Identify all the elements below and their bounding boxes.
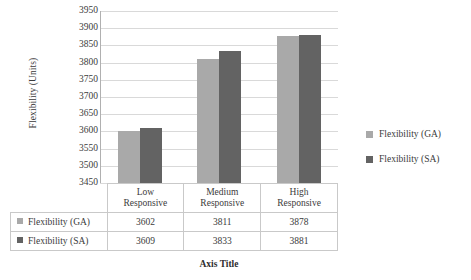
bar-sa[interactable] <box>219 51 241 183</box>
bar-group <box>100 11 179 183</box>
legend-label: Flexibility (SA) <box>379 154 439 164</box>
bar-chart-figure: Flexibility (Units) 34503500355036003650… <box>0 0 471 280</box>
category-header-cell: LowResponsive <box>107 184 184 213</box>
y-axis-tick-label: 3950 <box>62 6 98 16</box>
bar-ga[interactable] <box>118 131 140 183</box>
chart-data-table: LowResponsiveMediumResponsiveHighRespons… <box>10 183 338 251</box>
y-axis-tick-label: 3500 <box>62 161 98 171</box>
category-label-line: Responsive <box>108 198 184 209</box>
table-value-cell: 3609 <box>107 232 184 251</box>
category-label-line: Responsive <box>261 198 337 209</box>
bar-ga[interactable] <box>277 36 299 183</box>
series-color-swatch-icon <box>17 218 23 224</box>
legend-item[interactable]: Flexibility (GA) <box>366 128 468 140</box>
legend-label: Flexibility (GA) <box>379 129 441 139</box>
table-value-cell: 3881 <box>261 232 338 251</box>
series-color-swatch-icon <box>17 237 23 243</box>
table-row: Flexibility (SA)360938333881 <box>11 232 338 251</box>
table-row-categories: LowResponsiveMediumResponsiveHighRespons… <box>11 184 338 213</box>
y-axis-tick-label: 3550 <box>62 144 98 154</box>
bar-ga[interactable] <box>197 59 219 183</box>
table-value-cell: 3602 <box>107 213 184 232</box>
y-axis-tick-label: 3800 <box>62 58 98 68</box>
y-axis-tick-label: 3750 <box>62 75 98 85</box>
table-value-cell: 3833 <box>184 232 261 251</box>
chart-legend: Flexibility (GA)Flexibility (SA) <box>366 128 468 178</box>
category-label-line: Responsive <box>184 198 260 209</box>
y-axis-tick-label: 3700 <box>62 92 98 102</box>
table-row: Flexibility (GA)360238113878 <box>11 213 338 232</box>
category-label-line: Medium <box>184 187 260 198</box>
legend-color-swatch-icon <box>366 156 373 163</box>
legend-item[interactable]: Flexibility (SA) <box>366 153 468 165</box>
y-axis-tick-label: 3900 <box>62 23 98 33</box>
table-value-cell: 3878 <box>261 213 338 232</box>
table-value-cell: 3811 <box>184 213 261 232</box>
y-axis-tick-label: 3650 <box>62 109 98 119</box>
table-series-label: Flexibility (GA) <box>28 217 90 227</box>
table-corner-cell <box>11 184 108 213</box>
bars-layer <box>100 11 338 183</box>
table-series-label-cell: Flexibility (SA) <box>11 232 108 251</box>
bar-group <box>259 11 338 183</box>
y-axis-tick-labels: 3450350035503600365037003750380038503900… <box>62 11 98 183</box>
y-axis-tick-label: 3850 <box>62 41 98 51</box>
y-axis-title: Flexibility (Units) <box>28 23 38 163</box>
category-header-cell: MediumResponsive <box>184 184 261 213</box>
plot-area <box>100 11 338 183</box>
legend-color-swatch-icon <box>366 131 373 138</box>
category-header-cell: HighResponsive <box>261 184 338 213</box>
bar-sa[interactable] <box>299 35 321 183</box>
y-axis-tick-label: 3600 <box>62 127 98 137</box>
bar-sa[interactable] <box>140 128 162 183</box>
category-label-line: High <box>261 187 337 198</box>
bar-group <box>179 11 258 183</box>
category-label-line: Low <box>108 187 184 198</box>
table-series-label-cell: Flexibility (GA) <box>11 213 108 232</box>
table-series-label: Flexibility (SA) <box>28 236 88 246</box>
x-axis-title: Axis Title <box>100 259 338 269</box>
